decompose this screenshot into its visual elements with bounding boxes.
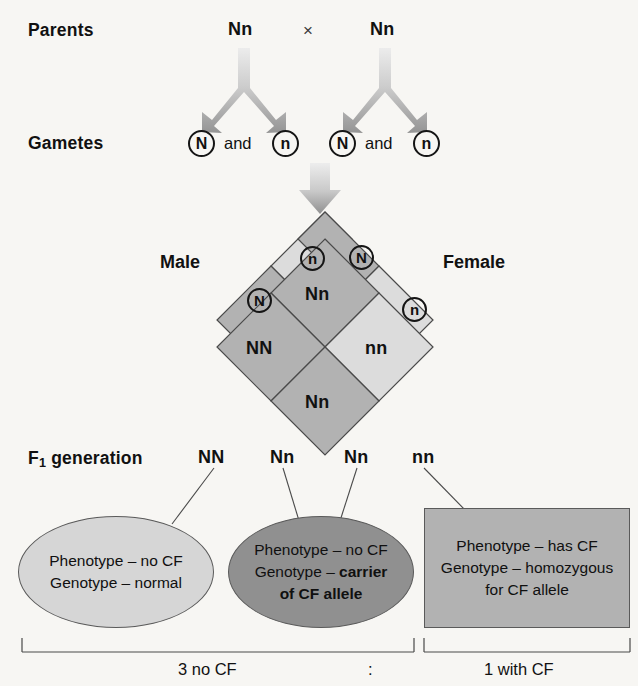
fertilisation-down-arrow	[299, 163, 341, 214]
female-gamete-split-arrow	[343, 48, 427, 133]
punnett-female-label: Female	[443, 252, 505, 273]
punnett-cell-right-label: nn	[365, 338, 388, 359]
gamete-circle-male-N: N	[188, 130, 215, 157]
outcome-carrier-line-3-bold: of CF allele	[280, 585, 363, 602]
f1-label-suffix: generation	[46, 448, 143, 468]
gamete-circle-female-N: N	[329, 130, 356, 157]
outcome-carrier-line-2-bold: carrier	[339, 563, 387, 580]
leader-line-nn	[424, 468, 467, 512]
parents-row-label: Parents	[28, 20, 94, 41]
leader-line-NN	[172, 468, 214, 524]
outcome-carrier-line-2: Genotype – carrier	[255, 561, 388, 583]
outcome-normal-line-2: Genotype – normal	[50, 572, 182, 594]
ratio-left-text: 3 no CF	[178, 660, 237, 679]
gametes-row-label: Gametes	[28, 133, 103, 154]
parent-male-genotype: Nn	[228, 19, 253, 40]
f1-genotype-Nn-1: Nn	[270, 447, 295, 468]
f1-genotype-NN: NN	[198, 447, 225, 468]
punnett-header-female-right: n	[402, 297, 427, 322]
punnett-cell-bottom-label: Nn	[305, 392, 330, 413]
leader-line-Nn-1	[283, 468, 300, 524]
bracket-left	[22, 638, 414, 652]
f1-row-label: F1 generation	[28, 448, 143, 470]
ratio-brackets	[22, 638, 630, 652]
male-gamete-split-arrow	[202, 48, 286, 133]
punnett-cell-left-label: NN	[246, 338, 273, 359]
f1-genotype-nn: nn	[412, 447, 435, 468]
bracket-right	[424, 638, 630, 652]
outcome-normal-line-1: Phenotype – no CF	[49, 550, 183, 572]
punnett-diamond	[217, 212, 433, 455]
outcome-carrier-line-1: Phenotype – no CF	[254, 539, 388, 561]
ratio-right-text: 1 with CF	[484, 660, 554, 679]
f1-label-prefix: F	[28, 448, 39, 468]
parent-female-genotype: Nn	[370, 19, 395, 40]
punnett-header-male-top: n	[300, 246, 325, 271]
outcome-carrier-ellipse: Phenotype – no CF Genotype – carrier of …	[228, 516, 414, 628]
punnett-cell-top-label: Nn	[305, 284, 330, 305]
leader-line-Nn-2	[339, 468, 357, 524]
f1-genotype-Nn-2: Nn	[344, 447, 369, 468]
punnett-header-female-top: N	[349, 245, 374, 270]
gamete-conjunction-female: and	[365, 134, 393, 153]
gamete-circle-male-n: n	[272, 130, 299, 157]
outcome-carrier-line-2-plain: Genotype –	[255, 563, 339, 580]
genetics-punnett-figure: Parents Nn × Nn Gametes N and n N and n …	[0, 0, 638, 686]
outcome-carrier-line-3: of CF allele	[280, 583, 363, 605]
outcome-affected-line-3: for CF allele	[485, 579, 569, 601]
punnett-header-male-left: N	[247, 288, 272, 313]
gamete-conjunction-male: and	[224, 134, 252, 153]
gamete-circle-female-n: n	[413, 130, 440, 157]
ratio-separator: :	[368, 660, 373, 679]
outcome-affected-line-2: Genotype – homozygous	[441, 557, 613, 579]
cross-symbol: ×	[303, 21, 313, 41]
outcome-affected-rect: Phenotype – has CF Genotype – homozygous…	[424, 508, 630, 628]
punnett-male-label: Male	[160, 252, 200, 273]
outcome-affected-line-1: Phenotype – has CF	[456, 535, 597, 557]
outcome-normal-ellipse: Phenotype – no CF Genotype – normal	[18, 516, 214, 628]
